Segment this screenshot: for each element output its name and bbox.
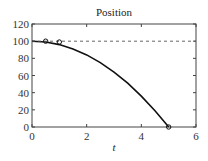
x-tick-label: 6 <box>193 130 199 142</box>
chart-title: Position <box>96 6 133 18</box>
y-tick-label: 80 <box>18 52 30 64</box>
position-chart: 0246020406080100120Positiont <box>0 0 208 161</box>
y-tick-label: 120 <box>13 18 30 30</box>
x-tick-label: 4 <box>139 130 145 142</box>
data-marker <box>57 40 61 44</box>
y-tick-label: 60 <box>18 70 30 82</box>
x-tick-label: 0 <box>29 130 35 142</box>
y-tick-label: 40 <box>18 87 30 99</box>
position-curve <box>32 41 169 127</box>
plot-frame <box>32 24 196 127</box>
y-tick-label: 20 <box>18 104 30 116</box>
x-tick-label: 2 <box>84 130 90 142</box>
y-tick-label: 100 <box>13 35 30 47</box>
x-axis-label: t <box>112 141 116 153</box>
y-tick-label: 0 <box>24 121 30 133</box>
